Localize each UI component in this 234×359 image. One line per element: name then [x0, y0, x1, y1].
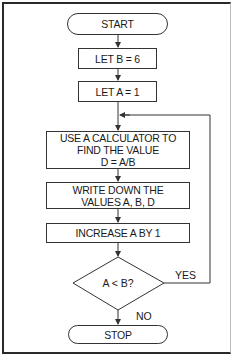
calculate-box: USE A CALCULATOR TO FIND THE VALUE D = A…: [46, 131, 190, 169]
increase-box: INCREASE A BY 1: [46, 223, 190, 243]
calc-line-1: USE A CALCULATOR TO: [60, 132, 176, 144]
let-a-box: LET A = 1: [78, 81, 157, 102]
write-down-box: WRITE DOWN THE VALUES A, B, D: [46, 182, 190, 209]
start-terminal: START: [67, 13, 168, 35]
increase-label: INCREASE A BY 1: [76, 227, 161, 239]
start-label: START: [101, 18, 133, 30]
no-label: NO: [136, 310, 152, 322]
write-line-2: VALUES A, B, D: [81, 196, 154, 208]
calc-line-3: D = A/B: [101, 156, 136, 168]
decision-label: A < B?: [88, 277, 148, 289]
write-line-1: WRITE DOWN THE: [73, 184, 164, 196]
yes-label: YES: [175, 269, 196, 281]
let-b-box: LET B = 6: [78, 48, 157, 69]
calc-line-2: FIND THE VALUE: [77, 144, 159, 156]
let-b-label: LET B = 6: [95, 53, 140, 65]
let-a-label: LET A = 1: [96, 86, 140, 98]
stop-label: STOP: [104, 329, 132, 341]
stop-terminal: STOP: [68, 325, 168, 344]
